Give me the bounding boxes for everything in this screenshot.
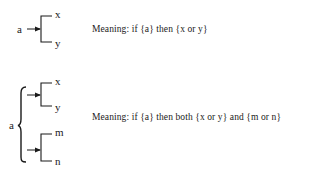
diagram-2-meaning: Meaning: if {a} then both {x or y} and {… <box>92 112 281 122</box>
diagram-1-meaning: Meaning: if {a} then {x or y} <box>92 24 208 34</box>
diagram-1-output-y: y <box>55 37 61 49</box>
diagram-2-output-x: x <box>55 75 61 87</box>
diagram-2-output-n: n <box>55 155 61 167</box>
curly-brace-icon <box>18 87 26 162</box>
bracket-icon <box>41 16 52 42</box>
bracket-icon <box>41 83 52 106</box>
bracket-icon <box>41 134 52 161</box>
diagram-2-output-m: m <box>55 126 64 138</box>
diagram-2-and-choice: a x y m n <box>9 75 64 167</box>
diagram-2-input-label: a <box>9 119 14 131</box>
diagram-1-or-choice: a x y <box>17 8 61 49</box>
diagram-1-input-label: a <box>17 23 22 35</box>
diagram-2-output-y: y <box>55 101 61 113</box>
diagram-1-output-x: x <box>55 8 61 20</box>
